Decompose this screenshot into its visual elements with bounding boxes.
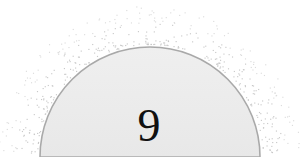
halo-dot <box>245 58 246 59</box>
halo-dot <box>48 85 49 86</box>
halo-dot <box>238 73 239 74</box>
halo-dot <box>84 64 85 65</box>
badge-canvas: 9 <box>0 0 301 157</box>
halo-dot <box>127 43 128 44</box>
halo-dot <box>36 79 37 80</box>
halo-dot <box>136 6 137 7</box>
halo-dot <box>101 50 102 51</box>
halo-dot <box>65 80 66 81</box>
halo-dot <box>43 98 44 99</box>
halo-dot <box>242 78 243 79</box>
halo-dot <box>69 60 70 61</box>
halo-dot <box>27 99 28 100</box>
halo-dot <box>264 75 265 76</box>
halo-dot <box>148 43 149 44</box>
halo-dot <box>245 85 246 86</box>
halo-dot <box>38 70 39 71</box>
halo-dot <box>155 27 156 28</box>
halo-dot <box>236 81 237 82</box>
halo-dot <box>108 42 109 43</box>
halo-dot <box>224 61 225 62</box>
halo-dot <box>251 67 252 68</box>
halo-dot <box>168 40 169 41</box>
halo-dot <box>269 149 270 150</box>
halo-dot <box>58 52 59 53</box>
halo-dot <box>126 10 127 11</box>
halo-dot <box>138 23 139 24</box>
halo-dot <box>164 45 165 46</box>
halo-dot <box>52 86 53 87</box>
halo-dot <box>149 15 150 16</box>
halo-dot <box>65 74 66 75</box>
halo-dot <box>218 46 219 47</box>
halo-dot <box>42 96 43 97</box>
halo-dot <box>102 38 103 39</box>
halo-dot <box>207 57 208 58</box>
halo-dot <box>25 80 26 81</box>
halo-dot <box>220 66 221 67</box>
halo-dot <box>219 63 220 64</box>
halo-dot <box>213 50 214 51</box>
halo-dot <box>161 43 162 44</box>
halo-dot <box>115 23 116 24</box>
halo-dot <box>216 58 217 59</box>
halo-dot <box>218 63 219 64</box>
halo-dot <box>234 71 235 72</box>
halo-dot <box>46 76 47 77</box>
halo-dot <box>115 28 116 29</box>
halo-dot <box>86 64 87 65</box>
halo-dot <box>26 71 27 72</box>
halo-dot <box>24 84 25 85</box>
halo-dot <box>118 49 119 50</box>
halo-dot <box>97 56 98 57</box>
halo-dot <box>49 52 50 53</box>
halo-dot <box>35 151 36 152</box>
halo-dot <box>151 44 152 45</box>
halo-dot <box>115 45 116 46</box>
halo-dot <box>87 22 88 23</box>
badge-number: 9 <box>0 103 300 149</box>
halo-dot <box>37 91 38 92</box>
halo-dot <box>203 47 204 48</box>
halo-dot <box>248 99 249 100</box>
halo-dot <box>81 51 82 52</box>
halo-dot <box>162 21 163 22</box>
halo-dot <box>155 40 156 41</box>
halo-dot <box>245 64 246 65</box>
halo-dot <box>256 73 257 74</box>
halo-dot <box>268 99 269 100</box>
halo-dot <box>79 64 80 65</box>
halo-dot <box>73 29 74 30</box>
halo-dot <box>276 95 277 96</box>
halo-dot <box>249 78 250 79</box>
halo-dot <box>172 25 173 26</box>
halo-dot <box>173 46 174 47</box>
halo-dot <box>146 38 147 39</box>
halo-dot <box>275 93 276 94</box>
halo-dot <box>105 46 106 47</box>
halo-dot <box>273 98 274 99</box>
halo-dot <box>253 64 254 65</box>
halo-dot <box>64 84 65 85</box>
halo-dot <box>45 86 46 87</box>
halo-dot <box>78 57 79 58</box>
halo-dot <box>109 21 110 22</box>
halo-dot <box>190 28 191 29</box>
halo-dot <box>196 33 197 34</box>
halo-dot <box>271 152 272 153</box>
halo-dot <box>75 67 76 68</box>
halo-dot <box>125 45 126 46</box>
halo-dot <box>98 48 99 49</box>
halo-dot <box>68 47 69 48</box>
halo-dot <box>228 68 229 69</box>
halo-dot <box>70 77 71 78</box>
halo-dot <box>36 99 37 100</box>
halo-dot <box>67 76 68 77</box>
halo-dot <box>141 8 142 9</box>
halo-dot <box>92 44 93 45</box>
halo-dot <box>113 45 114 46</box>
halo-dot <box>223 54 224 55</box>
halo-dot <box>216 25 217 26</box>
halo-dot <box>224 72 225 73</box>
halo-dot <box>99 18 100 19</box>
